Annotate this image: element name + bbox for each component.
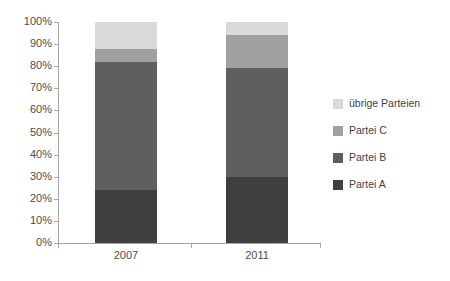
y-axis-tick-label: 50% <box>4 127 52 138</box>
bar-segment <box>226 35 288 68</box>
legend-item: übrige Parteien <box>333 90 448 117</box>
legend-swatch-icon <box>333 126 343 136</box>
y-axis-tick-label: 40% <box>4 149 52 160</box>
y-axis-tick-label: 100% <box>4 16 52 27</box>
x-axis-tick-label: 2011 <box>222 250 292 261</box>
stacked-bar-chart: 0%10%20%30%40%50%60%70%80%90%100% 200720… <box>0 0 450 281</box>
legend-label: Partei A <box>349 179 386 190</box>
bar-segment <box>226 177 288 243</box>
bar-segment <box>95 190 157 243</box>
x-axis-tick <box>320 243 321 248</box>
bar-2011 <box>226 22 288 243</box>
bar-segment <box>95 49 157 62</box>
y-axis-tick-label: 0% <box>4 237 52 248</box>
bar-segment <box>226 22 288 35</box>
y-axis-tick-label: 60% <box>4 104 52 115</box>
plot-area <box>58 22 320 243</box>
legend-label: übrige Parteien <box>349 98 420 109</box>
legend-item: Partei A <box>333 171 448 198</box>
y-axis-tick-label: 90% <box>4 38 52 49</box>
y-axis-tick-label: 70% <box>4 82 52 93</box>
x-axis-line <box>58 243 320 244</box>
x-axis-tick <box>58 243 59 248</box>
bar-segment <box>95 62 157 190</box>
y-axis-tick-label: 20% <box>4 193 52 204</box>
legend-swatch-icon <box>333 180 343 190</box>
bar-2007 <box>95 22 157 243</box>
legend-swatch-icon <box>333 153 343 163</box>
legend-item: Partei B <box>333 144 448 171</box>
legend-label: Partei C <box>349 125 387 136</box>
y-axis-tick-label: 30% <box>4 171 52 182</box>
x-axis-tick <box>191 243 192 248</box>
bar-segment <box>95 22 157 49</box>
y-axis-tick-label: 10% <box>4 215 52 226</box>
legend-swatch-icon <box>333 99 343 109</box>
y-axis-tick-label: 80% <box>4 60 52 71</box>
x-axis-tick-label: 2007 <box>91 250 161 261</box>
legend-label: Partei B <box>349 152 386 163</box>
bar-segment <box>226 68 288 176</box>
chart-legend: übrige ParteienPartei CPartei BPartei A <box>333 90 448 198</box>
legend-item: Partei C <box>333 117 448 144</box>
